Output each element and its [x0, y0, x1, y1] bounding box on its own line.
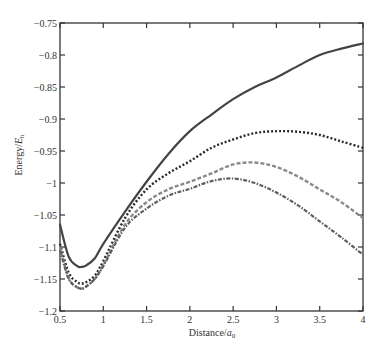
series-line-solid [60, 43, 363, 267]
x-tick-label: 1.5 [140, 314, 153, 325]
x-axis-label: Distance/a0 [189, 327, 236, 340]
plot-border [60, 23, 363, 311]
series-layer [60, 43, 363, 288]
y-tick-label: −0.8 [39, 50, 57, 61]
y-tick-label: −1.15 [34, 274, 57, 285]
y-tick-label: −1 [46, 178, 57, 189]
y-tick-label: −0.95 [34, 146, 57, 157]
y-tick-label: −1.2 [39, 306, 57, 317]
x-tick-label: 4 [361, 314, 366, 325]
y-tick-label: −1.1 [39, 242, 57, 253]
y-tick-label: −0.9 [39, 114, 57, 125]
y-tick-label: −1.05 [34, 210, 57, 221]
x-tick-label: 3.5 [313, 314, 326, 325]
energy-distance-chart: 0.511.522.533.54 −0.75−0.8−0.85−0.9−0.95… [0, 0, 385, 356]
x-tick-label: 2 [187, 314, 192, 325]
x-tick-label: 1 [101, 314, 106, 325]
x-tick-label: 3 [274, 314, 279, 325]
y-tick-label: −0.85 [34, 82, 57, 93]
plot-frame [60, 23, 363, 311]
x-tick-label: 2.5 [227, 314, 240, 325]
y-tick-label: −0.75 [34, 18, 57, 29]
y-axis-label: Energy/Eh [13, 134, 26, 176]
series-line-dash-dot [60, 178, 363, 288]
y-axis-ticks: −0.75−0.8−0.85−0.9−0.95−1−1.05−1.1−1.15−… [34, 18, 363, 317]
